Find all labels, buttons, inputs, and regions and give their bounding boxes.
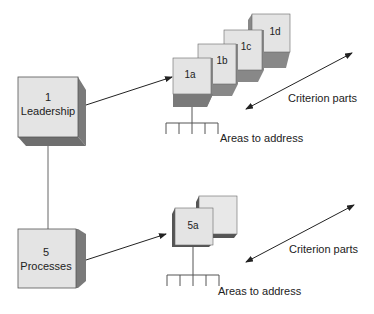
part-label: 1c	[241, 41, 252, 52]
criterion-parts-label-top: Criterion parts	[288, 92, 358, 104]
arrow-to-parts	[86, 77, 172, 105]
criterion-number: 5	[43, 246, 49, 258]
part-box-5a: 5a	[172, 208, 213, 247]
part-label: 1a	[184, 69, 196, 80]
part-label: 1d	[269, 26, 280, 37]
criterion-name: Processes	[20, 260, 72, 272]
criterion-parts-label-bottom: Criterion parts	[289, 243, 359, 255]
part-label: 1b	[216, 55, 228, 66]
criterion-box-leadership: 1 Leadership	[18, 77, 86, 146]
part-box-1a: 1a	[173, 58, 213, 107]
areas-label-top: Areas to address	[220, 132, 304, 144]
areas-comb-bottom	[167, 246, 219, 286]
criterion-number: 1	[45, 91, 51, 103]
criterion-box-processes: 5 Processes	[18, 229, 86, 288]
arrow-to-parts	[86, 234, 166, 260]
part-label: 5a	[187, 220, 199, 231]
areas-label-bottom: Areas to address	[218, 285, 302, 297]
areas-comb-top	[166, 107, 218, 134]
diagram-canvas: 1 Leadership 1d 1c 1b 1a Areas to addres…	[0, 0, 374, 314]
criterion-name: Leadership	[21, 105, 75, 117]
